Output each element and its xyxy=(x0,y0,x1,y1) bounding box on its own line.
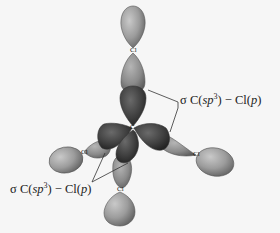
cl-right-atom-label: Cl xyxy=(193,151,200,158)
label-text: C( xyxy=(20,182,33,196)
c-sp3-right-lobe xyxy=(134,124,169,151)
orbital-diagram: Cl Cl Cl Cl C σ C(sp3) − Cl(p) σ C(sp3) … xyxy=(0,0,280,233)
label-text: ) − Cl( xyxy=(48,182,81,196)
cl-top-outer-lobe xyxy=(121,6,145,48)
cl-bottom-atom-label: Cl xyxy=(117,186,124,193)
label-text: C( xyxy=(190,93,203,107)
label-text: ) xyxy=(257,93,261,107)
label-text: ) xyxy=(87,182,91,196)
cl-bottom-outer-lobe xyxy=(104,192,135,226)
label-sp: sp xyxy=(32,182,43,196)
cl-left-atom-label: Cl xyxy=(81,149,88,156)
sigma-bond-label-bottom: σ C(sp3) − Cl(p) xyxy=(10,183,91,196)
sigma-symbol: σ xyxy=(10,182,17,196)
sigma-symbol: σ xyxy=(180,93,187,107)
label-sp: sp xyxy=(202,93,213,107)
c-sp3-top-lobe xyxy=(120,86,146,126)
cl-top-atom-label: Cl xyxy=(130,47,137,54)
label-text: ) − Cl( xyxy=(218,93,251,107)
cl-left-outer-lobe xyxy=(47,144,85,176)
sigma-bond-label-top: σ C(sp3) − Cl(p) xyxy=(180,94,261,107)
c-central-atom-label: C xyxy=(130,124,135,131)
ccl4-orbital-illustration xyxy=(0,0,280,233)
